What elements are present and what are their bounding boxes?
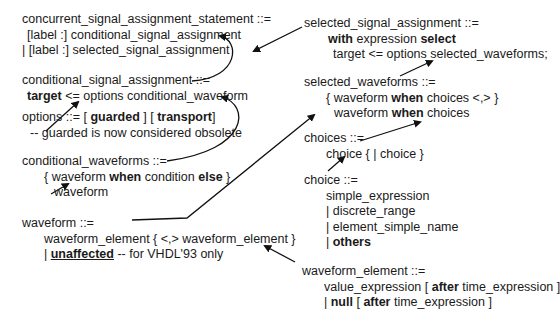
keyword-else: else (198, 170, 222, 184)
rule-conditional-signal-assignment: conditional_signal_assignment ::= target… (22, 73, 248, 104)
keyword-guarded: guarded (90, 110, 139, 124)
keyword-after: after (363, 295, 390, 309)
rule-line: | element_simple_name (304, 220, 458, 236)
keyword-when: when (391, 91, 423, 105)
rule-head: choices ::= (304, 131, 424, 147)
rule-line: waveform (22, 185, 230, 201)
rule-line: | others (304, 235, 458, 251)
rule-line: with expression select (304, 32, 548, 48)
rule-head: selected_waveforms ::= (304, 75, 498, 91)
rule-line: choice { | choice } (304, 147, 424, 163)
keyword-when: when (392, 106, 424, 120)
rule-line: | unaffected -- for VHDL'93 only (22, 247, 296, 263)
rule-conditional-waveforms: conditional_waveforms ::= { waveform whe… (22, 154, 230, 201)
keyword-unaffected: unaffected (51, 247, 114, 261)
rule-comment: -- guarded is now considered obsolete (22, 126, 242, 142)
keyword-when: when (109, 170, 141, 184)
rule-line: | null [ after time_expression ] (302, 295, 560, 311)
rule-waveform: waveform ::= waveform_element { <,> wave… (22, 216, 296, 263)
rule-choice: choice ::= simple_expression | discrete_… (304, 173, 458, 251)
rule-head: selected_signal_assignment ::= (304, 16, 548, 32)
rule-selected-signal-assignment: selected_signal_assignment ::= with expr… (304, 16, 548, 63)
keyword-after: after (432, 280, 459, 294)
rule-line: waveform_element { <,> waveform_element … (22, 232, 296, 248)
rule-head: waveform ::= (22, 216, 296, 232)
keyword-others: others (333, 235, 371, 249)
keyword-null: null (331, 295, 353, 309)
rule-line: target <= options conditional_waveform (22, 89, 248, 105)
rule-line: [label :] conditional_signal_assignment (22, 28, 271, 44)
rule-concurrent-signal-assignment-statement: concurrent_signal_assignment_statement :… (22, 12, 271, 59)
rule-line: value_expression [ after time_expression… (302, 280, 560, 296)
rule-line: | [label :] selected_signal_assignment (22, 43, 271, 59)
rule-head: waveform_element ::= (302, 264, 560, 280)
rule-waveform-element: waveform_element ::= value_expression [ … (302, 264, 560, 311)
rule-line: target <= options selected_waveforms; (304, 47, 548, 63)
rule-line: waveform when choices (304, 106, 498, 122)
rule-head: conditional_waveforms ::= (22, 154, 230, 170)
keyword-target: target (27, 89, 62, 103)
rule-options: options ::= [ guarded ] [ transport] -- … (22, 110, 242, 141)
rule-line: { waveform when condition else } (22, 170, 230, 186)
keyword-select: select (420, 32, 455, 46)
rule-head: choice ::= (304, 173, 458, 189)
rule-head: conditional_signal_assignment ::= (22, 73, 248, 89)
rule-selected-waveforms: selected_waveforms ::= { waveform when c… (304, 75, 498, 122)
keyword-with: with (328, 32, 353, 46)
rule-line: simple_expression (304, 189, 458, 205)
rule-head: concurrent_signal_assignment_statement :… (22, 12, 271, 28)
keyword-transport: transport (157, 110, 212, 124)
arrow-selwaveforms-to-selected (400, 61, 432, 76)
rule-choices: choices ::= choice { | choice } (304, 131, 424, 162)
rule-line: { waveform when choices <,> } (304, 91, 498, 107)
rule-head: options ::= [ guarded ] [ transport] (22, 110, 242, 126)
rule-line: | discrete_range (304, 204, 458, 220)
